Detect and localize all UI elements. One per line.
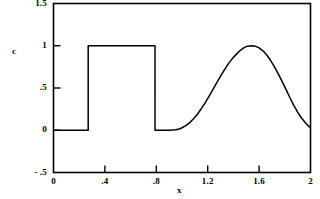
y-tick-label-3: 0 — [5, 124, 47, 134]
x-tick-label-3: 1.2 — [188, 176, 228, 186]
plot-figure: 1.51.50- .50.4.81.21.62 c x — [0, 0, 319, 199]
chart-canvas — [0, 0, 319, 199]
y-tick-label-2: .5 — [5, 82, 47, 92]
y-axis-title: c — [12, 46, 16, 56]
plot-frame-border — [54, 4, 311, 173]
data-curve-c — [54, 46, 311, 131]
x-tick-label-0: 0 — [34, 176, 74, 186]
x-tick-label-2: .8 — [136, 176, 176, 186]
x-axis-title: x — [177, 185, 182, 195]
x-tick-label-4: 1.6 — [239, 176, 279, 186]
y-tick-label-4: - .5 — [5, 167, 47, 177]
y-tick-label-0: 1.5 — [5, 0, 47, 8]
x-tick-label-1: .4 — [85, 176, 125, 186]
x-tick-label-5: 2 — [291, 176, 320, 186]
